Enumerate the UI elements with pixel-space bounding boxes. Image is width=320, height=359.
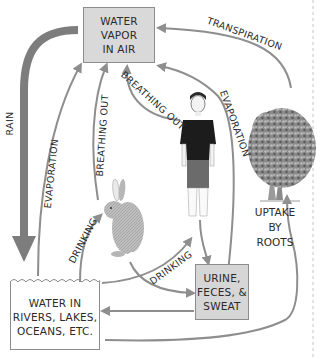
human-figure-icon <box>180 92 216 216</box>
water-vapor-box: WATER VAPOR IN AIR <box>83 7 155 63</box>
uptake-by-roots-label: UPTAKE BY ROOTS <box>245 205 305 250</box>
water-body-box: WATER IN RIVERS, LAKES, OCEANS, ETC. <box>10 282 100 350</box>
water-cycle-diagram: WATER VAPOR IN AIR URINE, FECES, & SWEAT… <box>0 0 320 359</box>
roots-line-2: BY <box>245 220 305 235</box>
tree-icon <box>248 108 316 201</box>
urine-feces-sweat-box: URINE, FECES, & SWEAT <box>195 264 249 320</box>
roots-line-1: UPTAKE <box>245 205 305 220</box>
water-line-3: OCEANS, ETC. <box>17 324 93 338</box>
rain-arrow <box>12 30 78 262</box>
urine-line-2: FECES, & <box>197 285 247 299</box>
human-to-urine-arrow <box>200 220 208 262</box>
right-edge-dotted-border <box>312 0 314 359</box>
urine-line-3: SWEAT <box>203 299 240 313</box>
rabbit-icon <box>104 179 144 258</box>
vapor-line-1: WATER <box>100 14 138 28</box>
water-line-1: WATER IN <box>29 296 81 310</box>
roots-line-3: ROOTS <box>245 235 305 250</box>
vapor-line-3: IN AIR <box>102 42 135 56</box>
rain-label: RAIN <box>4 112 15 136</box>
vapor-line-2: VAPOR <box>101 28 138 42</box>
water-line-2: RIVERS, LAKES, <box>13 310 97 324</box>
urine-line-1: URINE, <box>203 271 240 285</box>
